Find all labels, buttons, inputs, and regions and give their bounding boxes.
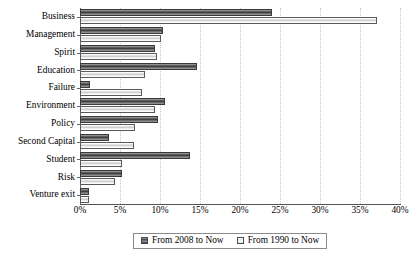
y-axis-category-label: Business (42, 12, 75, 21)
legend-swatch-icon-2008 (141, 237, 148, 244)
bar-series-2008 (80, 98, 165, 105)
bar-series-2008 (80, 45, 155, 52)
bar-series-2008 (80, 63, 197, 70)
x-axis-tick-label: 5% (114, 206, 127, 215)
chart-category-row: Risk (80, 168, 400, 186)
plot-area: BusinessManagementSpiritEducationFailure… (80, 8, 400, 204)
bar-series-2008 (80, 27, 163, 34)
chart-category-row: Environment (80, 97, 400, 115)
bar-series-1990 (80, 53, 157, 60)
chart-category-row: Policy (80, 115, 400, 133)
bar-series-2008 (80, 9, 272, 16)
bar-series-2008 (80, 81, 90, 88)
bar-series-1990 (80, 124, 135, 131)
x-axis-tick-label: 40% (391, 206, 408, 215)
legend-swatch-icon-1990 (237, 237, 244, 244)
bar-series-1990 (80, 196, 89, 203)
bar-series-2008 (80, 116, 158, 123)
x-axis-tick-label: 25% (271, 206, 288, 215)
chart-category-row: Second Capital (80, 133, 400, 151)
legend-label-1990: From 1990 to Now (248, 236, 320, 245)
y-axis-category-label: Student (46, 155, 75, 164)
bar-series-2008 (80, 152, 190, 159)
legend-label-2008: From 2008 to Now (152, 236, 224, 245)
x-axis-tick-labels: 0%5%10%15%20%25%30%35%40% (0, 206, 420, 222)
chart-category-row: Venture exit (80, 186, 400, 204)
bar-series-2008 (80, 170, 122, 177)
bar-series-1990 (80, 142, 134, 149)
gridline (400, 8, 402, 204)
y-axis-category-label: Policy (51, 119, 75, 128)
x-axis-tick-label: 30% (311, 206, 328, 215)
chart-category-row: Failure (80, 79, 400, 97)
y-axis-category-label: Education (37, 66, 75, 75)
bar-series-1990 (80, 71, 145, 78)
x-axis-tick-label: 15% (191, 206, 208, 215)
chart-category-row: Management (80, 26, 400, 44)
x-axis-tick-label: 0% (74, 206, 87, 215)
bar-series-1990 (80, 89, 142, 96)
y-axis-category-label: Environment (26, 101, 75, 110)
chart-category-row: Education (80, 61, 400, 79)
x-axis-tick-label: 20% (231, 206, 248, 215)
legend-entry-2008: From 2008 to Now (141, 236, 224, 245)
bar-series-1990 (80, 35, 161, 42)
x-axis-tick-label: 10% (151, 206, 168, 215)
bar-series-1990 (80, 178, 115, 185)
legend-entry-1990: From 1990 to Now (237, 236, 320, 245)
chart-category-row: Spirit (80, 44, 400, 62)
x-axis-tick-label: 35% (351, 206, 368, 215)
y-axis-category-label: Failure (48, 83, 75, 92)
bar-series-1990 (80, 106, 155, 113)
bar-chart: BusinessManagementSpiritEducationFailure… (0, 0, 420, 270)
y-axis-category-label: Spirit (54, 48, 75, 57)
y-axis-category-label: Risk (58, 173, 75, 182)
y-axis-category-label: Venture exit (29, 190, 75, 199)
y-axis-category-label: Management (26, 30, 75, 39)
chart-category-row: Business (80, 8, 400, 26)
bar-series-2008 (80, 188, 89, 195)
chart-category-row: Student (80, 151, 400, 169)
y-axis-category-label: Second Capital (18, 137, 75, 146)
bar-series-1990 (80, 160, 122, 167)
bar-series-2008 (80, 134, 109, 141)
bar-series-1990 (80, 17, 377, 24)
chart-legend: From 2008 to Now From 1990 to Now (133, 233, 327, 249)
